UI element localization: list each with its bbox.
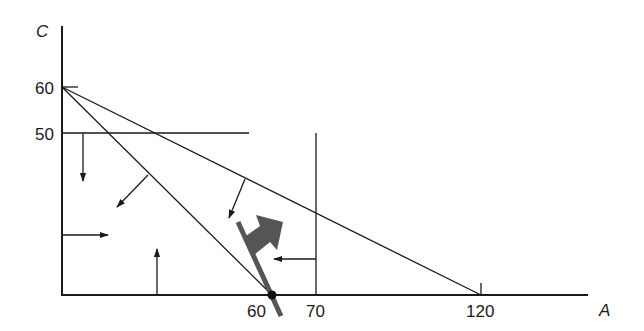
arrow-down-left-icon	[229, 179, 245, 218]
y-tick-label-60: 60	[35, 80, 54, 97]
arrow-down-left-icon	[117, 175, 148, 207]
x-tick-label-60: 60	[247, 303, 266, 320]
optimum-point	[268, 291, 277, 300]
x-axis-label: A	[599, 302, 610, 319]
y-tick-label-50: 50	[35, 126, 54, 143]
x-tick-label-120: 120	[466, 303, 494, 320]
objective-direction-arrow-icon	[246, 215, 283, 255]
x-tick-label-70: 70	[306, 303, 325, 320]
linear-program-diagram: C A 60 50 60 70 120	[0, 0, 644, 331]
constraint-line-a-plus-2c-120	[62, 87, 481, 295]
diagram-canvas	[0, 0, 644, 331]
y-axis-label: C	[36, 23, 48, 40]
